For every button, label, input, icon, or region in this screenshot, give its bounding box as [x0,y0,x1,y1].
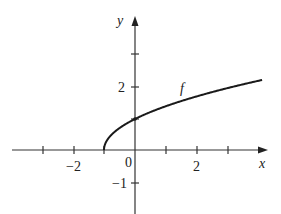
plot-canvas: y x f −2 0 2 2 −1 [0,0,281,214]
y-intercept-point [133,117,137,121]
x-tick-label-2: 2 [193,159,200,174]
x-axis-label: x [258,156,266,171]
x-tick-label-neg2: −2 [66,159,81,174]
x-axis-arrow-icon [258,147,268,154]
chart-figure: y x f −2 0 2 2 −1 [0,0,281,214]
function-label-f: f [180,81,186,96]
y-tick-label-2: 2 [118,80,125,95]
y-axis-arrow-icon [132,16,139,26]
y-tick-label-neg1: −1 [112,176,127,191]
origin-label: 0 [125,155,132,170]
y-axis-label: y [115,13,124,28]
